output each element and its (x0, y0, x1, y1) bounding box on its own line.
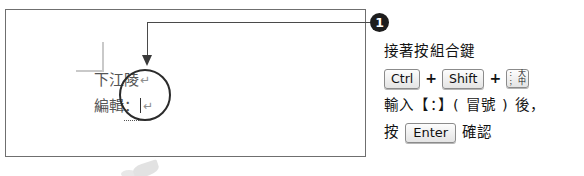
key-colon-semicolon: ： ； 大 中 (506, 69, 529, 88)
step-number-badge: 1 (370, 13, 389, 32)
callout-arrowhead-icon (142, 55, 152, 66)
callout-leader-line-horizontal (148, 22, 370, 23)
cropped-cursor-artifact-2 (121, 170, 137, 176)
callout-leader-line-vertical (147, 22, 148, 58)
instruction-key-combination-row: Ctrl + Shift + ： ； 大 中 (384, 65, 582, 92)
key-shift: Shift (442, 69, 484, 89)
key-enter: Enter (405, 123, 456, 143)
key-ctrl: Ctrl (384, 69, 420, 89)
key-legend-colon: ： (509, 70, 516, 78)
plus-sign-1: + (425, 65, 437, 92)
document-screenshot-frame: 下江陵↵ 編輯：↵ (5, 9, 366, 157)
instruction-line-1: 接著按組合鍵 (384, 38, 582, 65)
key-legend-zhong: 中 (518, 77, 526, 86)
instruction-line-4-prefix: 按 (384, 119, 399, 146)
instruction-line-4-suffix: 確認 (462, 119, 492, 146)
key-legend-semicolon: ； (509, 78, 516, 86)
instruction-line-3: 輸入【：】( 冒號 ) 後， (384, 92, 582, 119)
instruction-line-4: 按 Enter 確認 (384, 119, 582, 146)
instruction-callout: 接著按組合鍵 Ctrl + Shift + ： ； 大 中 輸入【：】( 冒號 … (384, 38, 582, 146)
screenshot-root: 下江陵↵ 編輯：↵ 1 接著按組合鍵 Ctrl + Shift + ： ； 大 … (0, 0, 584, 176)
plus-sign-2: + (489, 65, 501, 92)
emphasis-circle-annotation (119, 69, 171, 121)
